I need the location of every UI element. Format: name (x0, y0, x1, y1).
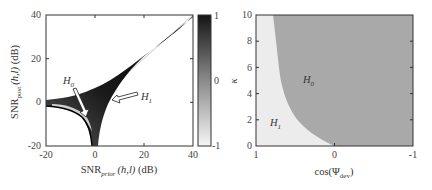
svg-text:40: 40 (31, 9, 41, 20)
svg-text:1: 1 (254, 149, 259, 160)
svg-text:0: 0 (214, 75, 219, 86)
left-plot: 40 20 0 -20 -20 0 20 40 SNRprior(h,l) (d… (9, 9, 198, 178)
svg-text:0: 0 (36, 96, 41, 107)
svg-text:40: 40 (188, 149, 198, 160)
svg-text:10: 10 (242, 9, 252, 20)
svg-text:20: 20 (139, 149, 149, 160)
svg-text:0: 0 (247, 140, 252, 151)
left-x-label: SNRprior(h,l) (dB) (81, 164, 158, 178)
svg-text:2: 2 (247, 114, 252, 125)
svg-text:1: 1 (214, 10, 219, 21)
svg-text:-1: -1 (409, 149, 417, 160)
colorbar-gradient (198, 15, 211, 146)
colorbar: 1 0 -1 (198, 10, 220, 151)
svg-text:-20: -20 (39, 149, 52, 160)
left-y-label: SNRpost(h,l) (dB) (9, 45, 23, 119)
svg-text:20: 20 (31, 53, 41, 64)
figure: 40 20 0 -20 -20 0 20 40 SNRprior(h,l) (d… (0, 0, 432, 190)
svg-text:-1: -1 (212, 140, 220, 151)
right-y-label: κ (228, 78, 239, 84)
svg-text:4: 4 (247, 88, 252, 99)
svg-text:0: 0 (93, 149, 98, 160)
svg-text:8: 8 (247, 35, 252, 46)
right-x-label: cos(Ψdev) (315, 166, 354, 180)
svg-text:6: 6 (247, 62, 252, 73)
svg-text:0: 0 (332, 149, 337, 160)
right-plot: 10 8 6 4 2 0 1 0 -1 H0 H1 cos(Ψdev) κ (228, 9, 417, 180)
